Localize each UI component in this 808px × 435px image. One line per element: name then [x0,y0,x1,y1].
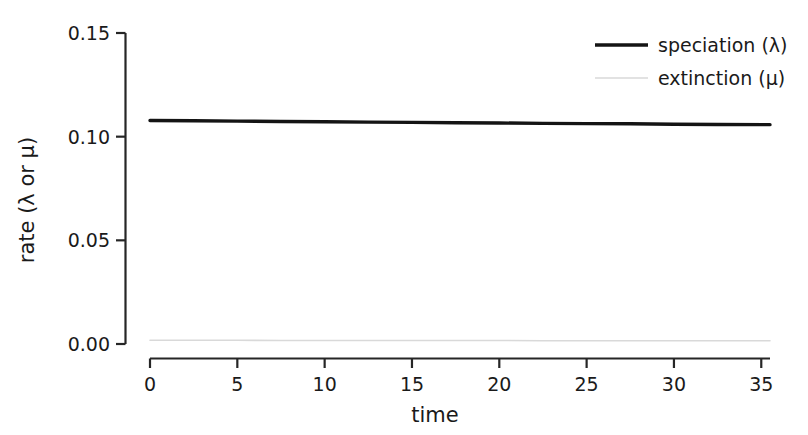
x-axis-title: time [411,403,458,427]
x-tick-label: 30 [662,373,686,395]
y-tick-label: 0.00 [68,333,110,355]
legend-label-1: speciation (λ) [658,34,788,56]
y-tick-label: 0.05 [68,229,110,251]
x-tick-label: 10 [313,373,337,395]
chart-figure: 0.000.050.100.15 05101520253035 time rat… [0,0,808,435]
x-tick-label: 20 [487,373,511,395]
x-tick-label: 25 [575,373,599,395]
y-tick-label: 0.15 [68,22,110,44]
x-tick-label: 0 [144,373,156,395]
y-tick-label: 0.10 [68,126,110,148]
line-chart: 0.000.050.100.15 05101520253035 time rat… [0,0,808,435]
x-tick-label: 5 [231,373,243,395]
y-axis-title: rate (λ or μ) [15,137,39,263]
legend-label-2: extinction (μ) [658,67,785,89]
chart-background [0,0,808,435]
x-tick-label: 15 [400,373,424,395]
x-tick-label: 35 [749,373,773,395]
